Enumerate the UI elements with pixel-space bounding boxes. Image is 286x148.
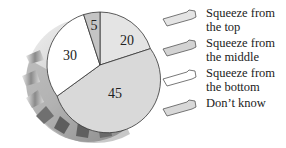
legend-item-squeeze-bottom: Squeeze from the bottom — [162, 66, 286, 96]
toothpaste-tube-icon — [162, 69, 198, 87]
legend-label-line1: Squeeze from — [206, 6, 275, 20]
toothpaste-tube-icon — [162, 99, 198, 117]
legend-label-line2: the middle — [206, 50, 275, 64]
legend-label-line1: Squeeze from — [206, 36, 275, 50]
chart-figure: 20 45 30 5 Squeeze from the top Squeeze … — [0, 0, 286, 148]
legend-label-line2: the top — [206, 20, 275, 34]
legend-label-line1: Squeeze from — [206, 66, 275, 80]
label-bottom: 30 — [63, 48, 77, 63]
toothpaste-tube-icon — [162, 9, 198, 27]
toothpaste-tube-icon — [162, 39, 198, 57]
legend-item-dont-know: Don’t know — [162, 96, 286, 126]
legend-item-squeeze-top: Squeeze from the top — [162, 6, 286, 36]
legend: Squeeze from the top Squeeze from the mi… — [162, 6, 286, 126]
legend-label-line1: Don’t know — [206, 96, 266, 110]
label-dont-know: 5 — [91, 18, 98, 33]
legend-label-line2: the bottom — [206, 80, 275, 94]
label-top: 20 — [120, 33, 134, 48]
legend-item-squeeze-middle: Squeeze from the middle — [162, 36, 286, 66]
label-middle: 45 — [108, 86, 122, 101]
